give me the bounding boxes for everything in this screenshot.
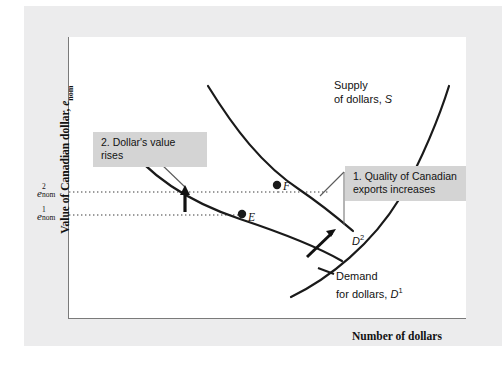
- exchange-rate-diagram-figure: Value of Canadian dollar, enom Number of…: [0, 0, 502, 368]
- y-axis-title-symbol: e: [59, 101, 71, 106]
- y-tick-label-e1-nom: e1nom: [18, 209, 64, 222]
- x-axis-title: Number of dollars: [352, 330, 442, 342]
- callout-dollar-value-rises: 2. Dollar's value rises: [93, 132, 207, 167]
- demand-shift-arrow: [307, 229, 336, 257]
- equilibrium-point-e-marker: [238, 210, 246, 218]
- y-axis-title: Value of Canadian dollar, enom: [59, 30, 74, 290]
- demand-curve-label: Demand for dollars, D1: [336, 270, 403, 301]
- equilibrium-point-f-label: F: [283, 180, 290, 192]
- equilibrium-point-e-label: E: [248, 211, 255, 223]
- demand-curve-superscript: 1: [398, 286, 402, 295]
- demand-curve-d2-label: D2: [352, 233, 364, 247]
- value-rise-arrow: [180, 185, 190, 212]
- y-axis-title-subscript: nom: [66, 86, 75, 101]
- y-tick-label-e2-nom: e2nom: [18, 186, 64, 199]
- supply-curve-symbol: S: [385, 93, 392, 105]
- callout-1-leader-line: [320, 172, 344, 196]
- demand-curve-d2: [208, 86, 353, 231]
- equilibrium-point-f-marker: [273, 181, 281, 189]
- callout-quality-of-exports: 1. Quality of Canadian exports increases: [345, 166, 466, 201]
- supply-curve-label: Supply of dollars, S: [334, 79, 392, 106]
